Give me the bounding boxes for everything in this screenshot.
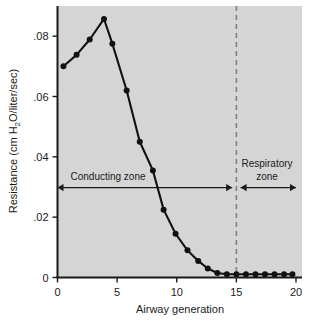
- y-axis-title-prefix: Resistance (cm H: [7, 126, 19, 213]
- data-point-marker: [124, 87, 130, 93]
- x-tick-label: 10: [171, 286, 183, 298]
- data-point-marker: [281, 271, 287, 277]
- data-point-marker: [109, 41, 115, 47]
- y-tick-label: .02: [33, 211, 48, 223]
- y-axis-title-suffix: O/liter/sec): [7, 69, 19, 122]
- y-tick-label: .04: [33, 151, 48, 163]
- airway-resistance-chart: 0.02.04.06.08 05101520 Conducting zone R…: [0, 0, 311, 322]
- data-point-marker: [233, 271, 239, 277]
- data-point-marker: [150, 167, 156, 173]
- data-point-marker: [262, 271, 268, 277]
- data-point-marker: [243, 271, 249, 277]
- respiratory-zone-label-line2: zone: [256, 171, 278, 182]
- respiratory-zone-label-line1: Respiratory: [241, 158, 292, 169]
- data-point-marker: [272, 271, 278, 277]
- y-tick-label: 0: [42, 272, 48, 284]
- data-point-marker: [289, 271, 295, 277]
- x-axis-ticks: 05101520: [54, 278, 302, 298]
- y-tick-label: .06: [33, 91, 48, 103]
- data-point-marker: [195, 258, 201, 264]
- data-point-marker: [224, 271, 230, 277]
- data-point-marker: [173, 231, 179, 237]
- data-point-marker: [87, 36, 93, 42]
- data-point-marker: [137, 139, 143, 145]
- conducting-zone-label: Conducting zone: [70, 171, 145, 182]
- data-point-marker: [74, 52, 80, 58]
- x-axis-title: Airway generation: [136, 303, 224, 315]
- data-point-marker: [205, 265, 211, 271]
- x-tick-label: 20: [290, 286, 302, 298]
- x-tick-label: 15: [230, 286, 242, 298]
- figure-container: 0.02.04.06.08 05101520 Conducting zone R…: [0, 0, 311, 322]
- plot-area-background: [57, 6, 302, 277]
- data-point-marker: [252, 271, 258, 277]
- data-point-marker: [214, 270, 220, 276]
- data-point-marker: [101, 16, 107, 22]
- y-tick-label: .08: [33, 30, 48, 42]
- y-axis-title: Resistance (cm H2O/liter/sec): [7, 69, 22, 213]
- x-tick-label: 5: [114, 286, 120, 298]
- data-point-marker: [60, 63, 66, 69]
- y-axis-ticks: 0.02.04.06.08: [33, 30, 57, 283]
- data-point-marker: [161, 207, 167, 213]
- data-point-marker: [184, 247, 190, 253]
- x-tick-label: 0: [54, 286, 60, 298]
